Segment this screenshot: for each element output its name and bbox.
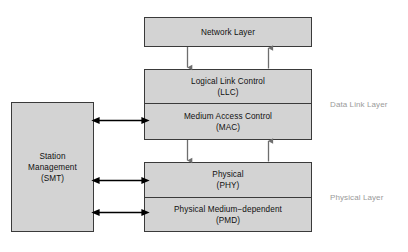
box-network-layer-label: Network Layer [201,27,255,38]
box-mac-label-line1: Medium Access Control [184,111,272,122]
box-station-management: Station Management (SMT) [11,102,94,232]
box-pmd-label-line1: Physical Medium−dependent [174,204,282,215]
side-label-data-link-layer: Data Link Layer [330,100,388,109]
box-phy-label-line1: Physical [212,169,243,180]
diagram-canvas: Network Layer Logical Link Control (LLC)… [0,0,408,252]
box-llc-label-line2: (LLC) [218,87,239,98]
box-smt-label-line1: Station [39,151,65,162]
box-smt-label-line2: Management [28,162,77,173]
side-label-physical-layer: Physical Layer [330,193,383,202]
box-llc-label-line1: Logical Link Control [191,76,265,87]
box-logical-link-control: Logical Link Control (LLC) [145,70,311,103]
box-network-layer: Network Layer [144,17,312,47]
box-smt-label-line3: (SMT) [41,173,64,184]
box-medium-access-control: Medium Access Control (MAC) [145,103,311,139]
group-physical-layer: Physical (PHY) Physical Medium−dependent… [144,162,312,232]
box-physical: Physical (PHY) [145,163,311,197]
box-pmd-label-line2: (PMD) [216,215,240,226]
box-mac-label-line2: (MAC) [216,122,240,133]
box-physical-medium-dependent: Physical Medium−dependent (PMD) [145,197,311,231]
group-data-link-layer: Logical Link Control (LLC) Medium Access… [144,69,312,140]
box-phy-label-line2: (PHY) [217,180,240,191]
